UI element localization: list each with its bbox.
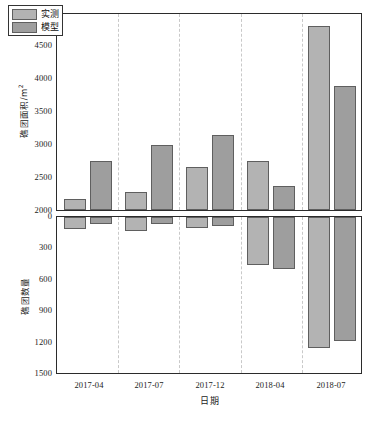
gridline-vertical <box>241 14 243 210</box>
legend-swatch-model <box>12 22 37 33</box>
xtick-2017-12: 2017-12 <box>181 381 239 390</box>
xtick-2018-04: 2018-04 <box>241 381 299 390</box>
bar-measured-2017-07 <box>125 217 147 231</box>
gridline-vertical <box>118 14 120 210</box>
bar-model-2018-04 <box>273 217 295 269</box>
legend: 实测 模型 <box>8 5 63 36</box>
bar-measured-2017-12 <box>186 167 208 210</box>
xtick-2017-07: 2017-07 <box>120 381 178 390</box>
bar-measured-2018-04 <box>247 161 269 211</box>
legend-label-model: 模型 <box>41 22 59 33</box>
bar-model-2017-04 <box>90 217 112 224</box>
bar-measured-2018-07 <box>308 217 330 348</box>
y-axis-title-top-superscript: 2 <box>17 84 24 88</box>
gridline-vertical <box>118 217 120 373</box>
bar-model-2017-12 <box>212 135 234 210</box>
gridline-vertical <box>302 217 304 373</box>
gridline-vertical <box>179 217 181 373</box>
bar-model-2017-12 <box>212 217 234 226</box>
bar-measured-2018-04 <box>247 217 269 265</box>
y-axis-title-top-text: 礁团面积/m <box>19 88 29 138</box>
ytick-top-2500: 2500 <box>22 173 52 182</box>
bar-measured-2017-04 <box>64 217 86 229</box>
ytick-bottom-0: 0 <box>22 212 52 221</box>
chart-panel-area <box>56 13 362 211</box>
y-axis-title-bottom: 礁团数量 <box>18 266 30 326</box>
gridline-vertical <box>241 217 243 373</box>
ytick-top-4500: 4500 <box>22 41 52 50</box>
y-axis-title-top: 礁团面积/m2 <box>17 71 29 151</box>
bar-model-2017-07 <box>151 145 173 210</box>
legend-item-measured: 实测 <box>12 8 59 20</box>
bar-model-2018-07 <box>334 86 356 210</box>
bar-model-2018-04 <box>273 186 295 210</box>
ytick-bottom-1500: 1500 <box>22 369 52 378</box>
bar-measured-2017-12 <box>186 217 208 228</box>
ytick-bottom-1200: 1200 <box>22 338 52 347</box>
bar-model-2018-07 <box>334 217 356 341</box>
bar-model-2017-04 <box>90 161 112 210</box>
gridline-vertical <box>179 14 181 210</box>
chart-panel-count <box>56 216 362 374</box>
bar-measured-2018-07 <box>308 26 330 210</box>
bar-measured-2017-07 <box>125 192 147 210</box>
gridline-vertical <box>302 14 304 210</box>
legend-swatch-measured <box>12 9 37 20</box>
bar-model-2017-07 <box>151 217 173 224</box>
bar-measured-2017-04 <box>64 199 86 210</box>
xtick-2017-04: 2017-04 <box>60 381 118 390</box>
x-axis-title: 日期 <box>180 394 240 407</box>
ytick-bottom-300: 300 <box>22 243 52 252</box>
legend-label-measured: 实测 <box>41 9 59 20</box>
xtick-2018-07: 2018-07 <box>302 381 360 390</box>
legend-item-model: 模型 <box>12 21 59 33</box>
figure-root: 5000 4500 4000 3500 3000 2500 2000 礁团面积/… <box>0 0 371 423</box>
